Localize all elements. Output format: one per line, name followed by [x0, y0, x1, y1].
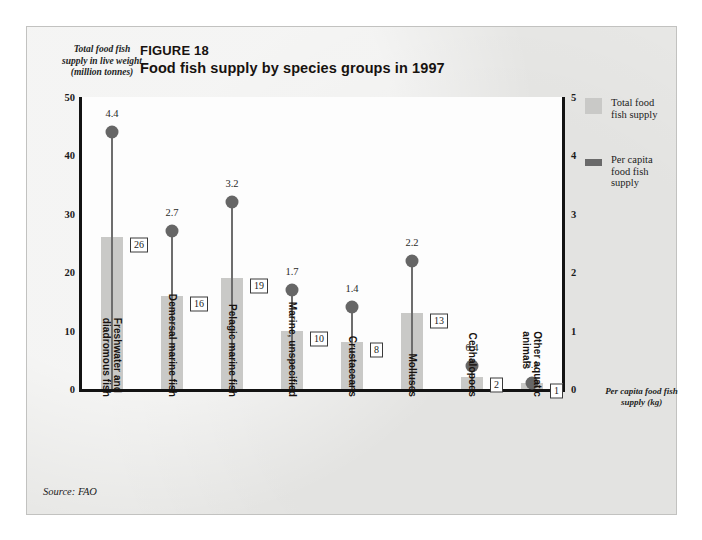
x-axis-category-label: Cephalopods	[467, 333, 478, 397]
total-bar-swatch-icon	[585, 98, 602, 114]
y-axis-tick-left: 0	[70, 384, 75, 395]
per-capita-value-label: 2.7	[165, 207, 178, 218]
y-axis-tick-right: 5	[571, 92, 576, 103]
bar-value-label: 26	[130, 238, 148, 253]
per-capita-value-label: 2.2	[405, 237, 418, 248]
figure-title: Food fish supply by species groups in 19…	[140, 60, 445, 76]
bar-value-label: 1	[550, 384, 563, 399]
per-capita-marker	[286, 283, 299, 296]
bar-value-label: 8	[370, 343, 383, 358]
per-capita-marker	[166, 225, 179, 238]
bar-value-label: 13	[430, 314, 448, 329]
x-axis-category-label: Molluscs	[407, 353, 418, 397]
per-capita-marker	[226, 196, 239, 209]
x-axis-category-label: Demersal marine fish	[167, 294, 178, 397]
per-capita-marker	[406, 254, 419, 267]
plot-area: 01020304050012345264.4Freshwater and dia…	[79, 97, 565, 392]
y-axis-tick-right: 2	[571, 267, 576, 278]
per-capita-marker	[346, 301, 359, 314]
y-axis-tick-left: 50	[65, 92, 76, 103]
bar-value-label: 10	[310, 331, 328, 346]
per-capita-value-label: 1.4	[345, 283, 358, 294]
x-axis-category-label: Crustaceans	[347, 336, 358, 397]
legend-item-total: Total food fish supply	[585, 97, 680, 120]
x-axis-category-label: Marine, unspecified	[287, 302, 298, 397]
y-axis-tick-right: 1	[571, 325, 576, 336]
x-axis-category-label: Pelagic marine fish	[227, 304, 238, 397]
x-axis-category-label: Freshwater and diadromous fish	[101, 318, 123, 397]
y-axis-tick-left: 40	[65, 150, 76, 161]
y-axis-tick-left: 30	[65, 208, 76, 219]
bar-value-label: 19	[250, 279, 268, 294]
bar-value-label: 2	[490, 378, 503, 393]
figure-number: FIGURE 18	[140, 43, 209, 58]
y-axis-tick-right: 3	[571, 208, 576, 219]
per-capita-marker-swatch-icon	[585, 159, 602, 166]
per-capita-marker	[106, 126, 119, 139]
bar-value-label: 16	[190, 296, 208, 311]
y-axis-tick-left: 20	[65, 267, 76, 278]
y-axis-tick-right: 4	[571, 150, 576, 161]
plot-inner: 01020304050012345264.4Freshwater and dia…	[82, 97, 562, 389]
source-note: Source: FAO	[43, 486, 97, 497]
legend-label-per-capita: Per capita food fish supply	[611, 154, 653, 189]
right-axis-caption: Per capita food fish supply (kg)	[584, 386, 699, 408]
legend-label-total: Total food fish supply	[611, 97, 657, 120]
figure-panel: Total food fish supply in live weight (m…	[26, 26, 677, 515]
y-axis-tick-left: 10	[65, 325, 76, 336]
per-capita-value-label: 3.2	[225, 178, 238, 189]
per-capita-value-label: 1.7	[285, 266, 298, 277]
legend: Total food fish supply Per capita food f…	[585, 97, 680, 223]
per-capita-value-label: 4.4	[105, 108, 118, 119]
y-axis-tick-right: 0	[571, 384, 576, 395]
x-axis-category-label: Other aquatic animals	[521, 331, 543, 397]
legend-item-per-capita: Per capita food fish supply	[585, 154, 680, 189]
